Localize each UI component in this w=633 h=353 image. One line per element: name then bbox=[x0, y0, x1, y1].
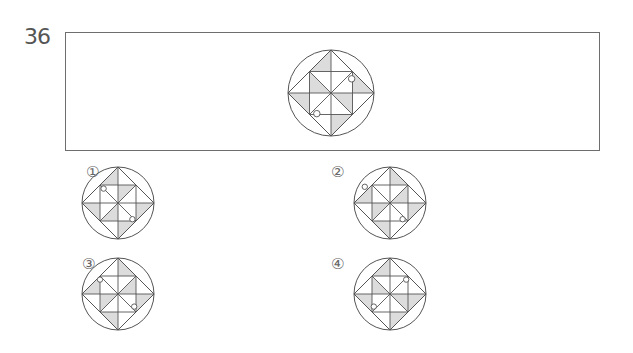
pattern-figure-icon bbox=[80, 256, 156, 332]
pattern-figure-icon bbox=[80, 165, 156, 241]
question-number: 36 bbox=[24, 24, 50, 49]
small-circle-marker bbox=[132, 304, 137, 309]
option-2-figure[interactable] bbox=[352, 165, 428, 245]
option-4-figure[interactable] bbox=[352, 256, 428, 336]
small-circle-marker bbox=[404, 277, 409, 282]
option-4-label: ④ bbox=[331, 255, 344, 273]
option-1-figure[interactable] bbox=[80, 165, 156, 245]
option-3-figure[interactable] bbox=[80, 256, 156, 336]
small-circle-marker bbox=[348, 76, 354, 82]
small-circle-marker bbox=[362, 184, 367, 189]
question-figure bbox=[286, 48, 376, 142]
small-circle-marker bbox=[400, 217, 405, 222]
small-circle-marker bbox=[371, 304, 376, 309]
pattern-figure-icon bbox=[352, 256, 428, 332]
pattern-figure-icon bbox=[286, 48, 376, 138]
small-circle-marker bbox=[130, 217, 135, 222]
option-2-label: ② bbox=[331, 163, 344, 181]
pattern-figure-icon bbox=[352, 165, 428, 241]
small-circle-marker bbox=[101, 186, 106, 191]
small-circle-marker bbox=[314, 110, 320, 116]
small-circle-marker bbox=[97, 277, 102, 282]
